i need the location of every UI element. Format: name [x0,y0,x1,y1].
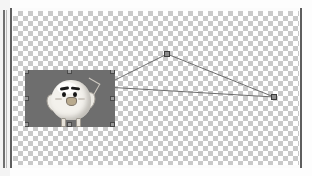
handle-bottom-right[interactable] [110,122,115,127]
bird-cheek-right [78,98,85,100]
handle-bottom-center[interactable] [67,122,72,127]
left-gutter [0,0,10,176]
bird-beak [66,97,77,106]
gutter-rail-dark [3,10,5,168]
segment-apex-to-right[interactable] [167,54,274,97]
bird-leg-left [61,118,66,127]
handle-top-center[interactable] [67,70,72,74]
selected-image-object[interactable] [25,70,115,127]
bird-cheek-left [55,98,62,100]
node-right[interactable] [271,94,277,100]
handle-top-right[interactable] [110,70,115,74]
handle-bottom-left[interactable] [25,122,29,127]
cartoon-bird-character [45,74,97,126]
handle-middle-left[interactable] [25,96,29,101]
handle-middle-right[interactable] [110,96,115,101]
bird-leg-right [76,118,81,127]
canvas-area[interactable] [10,8,302,168]
node-apex[interactable] [164,51,170,57]
editor-canvas-root [0,0,312,176]
image-object-content [25,70,115,127]
bird-eye-left [62,92,66,97]
gutter-rail-light [6,10,7,168]
handle-top-left[interactable] [25,70,29,74]
segment-origin-to-right[interactable] [105,87,274,97]
